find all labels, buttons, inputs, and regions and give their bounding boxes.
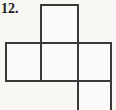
face-middle-right-square bbox=[78, 43, 111, 81]
face-middle-center-square bbox=[41, 43, 78, 81]
net-faces-group bbox=[6, 5, 111, 110]
face-top-square bbox=[41, 5, 78, 43]
cube-net-figure bbox=[0, 0, 116, 110]
face-bottom-partial-square bbox=[78, 81, 111, 110]
face-middle-left-square bbox=[6, 43, 41, 81]
figure-container: 12. bbox=[0, 0, 116, 110]
